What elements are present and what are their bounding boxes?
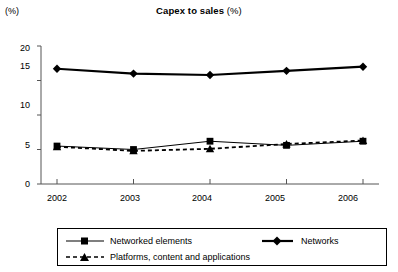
x-tick-marks <box>57 179 363 184</box>
legend-swatch-networks <box>255 235 297 247</box>
data-point-2003 <box>129 69 137 77</box>
legend-label-networked-elements: Networked elements <box>110 236 192 246</box>
legend-label-networks: Networks <box>301 236 339 246</box>
chart-legend: Networked elements Networks Platforms, c… <box>57 228 387 266</box>
legend-entry-networks: Networks <box>255 234 339 248</box>
data-point-2002 <box>53 65 61 73</box>
series-networks <box>53 63 367 80</box>
legend-swatch-networked-elements <box>64 235 106 247</box>
data-point-2004 <box>206 71 214 79</box>
data-point-2006 <box>359 63 367 71</box>
y-tick-marks <box>37 46 41 184</box>
data-point-2004 <box>207 138 214 145</box>
data-point-2005 <box>282 67 290 75</box>
data-series-layer <box>53 63 367 155</box>
legend-swatch-platforms <box>64 251 106 263</box>
capex-to-sales-chart: (%) Capex to sales (%) 20 15 10 5 0 2002… <box>0 0 398 272</box>
legend-entry-networked-elements: Networked elements <box>64 234 192 248</box>
legend-entry-platforms-content-applications: Platforms, content and applications <box>64 250 250 264</box>
axes <box>37 46 379 184</box>
legend-label-platforms: Platforms, content and applications <box>110 252 250 262</box>
